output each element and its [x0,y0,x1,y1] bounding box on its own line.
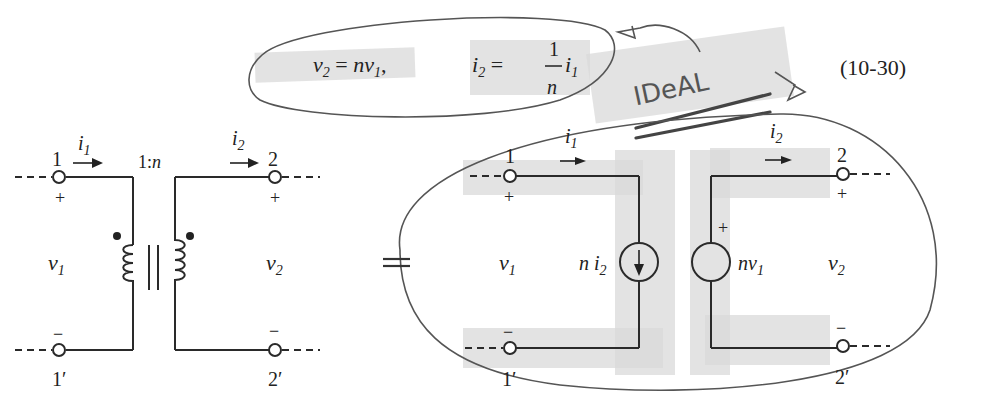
eq-label-terminal-2: 2 [837,144,847,166]
equation-number: (10-30) [840,55,906,80]
label-v1: v1 [48,250,65,278]
eq-frac-num: 1 [549,38,559,60]
terminal-2 [269,171,281,183]
eq-label-i2: i2 [770,120,783,146]
eq-terminal-2 [837,168,849,180]
eq-frac-den: n [547,76,557,98]
eq-label-v2: v2 [828,250,845,278]
plus-v2: + [270,188,280,208]
secondary-coil [175,177,185,350]
label-terminal-2-prime: 2′ [268,368,282,390]
eq-terminal-1-prime [504,342,516,354]
terminal-2-prime [269,344,281,356]
current-source-label: n i2 [579,252,607,278]
eq-minus-v2: − [836,318,846,338]
transformer-circuit: 1 i1 1:n i2 2 + + v1 v2 − − 1′ 2′ [15,127,320,390]
eq-label-v1: v1 [499,250,516,278]
dot-secondary [186,232,194,240]
label-terminal-1-prime: 1′ [52,368,66,390]
label-v2: v2 [266,250,283,278]
label-i1: i1 [78,132,91,158]
terminal-1 [53,171,65,183]
eq-plus-v2: + [837,184,847,204]
terminal-1-prime [53,344,65,356]
eq-label-i1: i1 [565,125,578,151]
equivalence-sign [383,259,410,266]
eq-terminal-1 [504,170,516,182]
eq-label-terminal-1: 1 [505,145,515,167]
eq-minus-v1: − [503,322,513,342]
dot-primary [113,232,121,240]
label-i2: i2 [232,127,245,153]
minus-v1: − [53,324,63,344]
eq-plus-v1: + [504,187,514,207]
highlighter-marks [255,26,830,375]
eq-label-terminal-2-prime: 2′ [835,366,849,388]
voltage-source-label: nv1 [738,252,764,278]
label-terminal-1: 1 [52,148,62,170]
label-turns-ratio: 1:n [138,152,161,172]
eq-label-terminal-1-prime: 1′ [502,368,516,390]
ideal-transformer-diagram: v2 = nv1, i2 = 1 n i1 (10-30) IDeAL [0,0,997,396]
voltage-source-plus: + [718,218,728,238]
minus-v2: − [269,321,279,341]
label-terminal-2: 2 [268,148,278,170]
eq-i2: i2 = [472,52,503,80]
primary-coil [123,245,133,290]
plus-v1: + [55,188,65,208]
eq-terminal-2-prime [837,340,849,352]
